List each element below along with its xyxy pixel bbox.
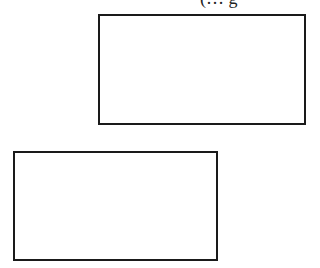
cropped-caption-text: (… g xyxy=(200,0,320,9)
rectangle-bottom-left xyxy=(13,151,218,261)
rectangle-top-right xyxy=(98,14,306,125)
